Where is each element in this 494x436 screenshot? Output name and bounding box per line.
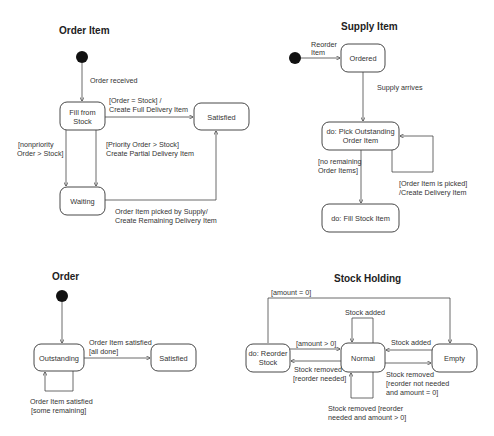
state-waiting-label: Waiting xyxy=(70,197,94,206)
label-supply-arrives: Supply arrives xyxy=(377,83,423,92)
label-removed-self: Stock removed [reorder xyxy=(328,404,404,413)
initial-state-dot xyxy=(76,51,88,63)
label-remaining-delivery: Create Remaining Delivery Item xyxy=(115,216,217,225)
label-priority: Create Partial Delivery Item xyxy=(106,149,194,158)
state-pick-outstanding-label: do: Pick Outstanding xyxy=(326,127,394,136)
transition-some-remaining xyxy=(45,371,73,391)
state-order-satisfied-label: Satisfied xyxy=(159,354,187,363)
label-reorder-item: Item xyxy=(311,48,325,57)
label-removed-self: needed and amount > 0] xyxy=(328,413,406,422)
stock-holding-diagram: Stock Holding [amount = 0] do: Reorder S… xyxy=(246,273,477,422)
label-some-remaining: [some remaining] xyxy=(31,406,86,415)
state-normal-label: Normal xyxy=(351,354,375,363)
transition-stock-added-self xyxy=(352,318,373,343)
order-item-title: Order Item xyxy=(59,25,110,36)
order-title: Order xyxy=(52,271,79,282)
label-amount-zero: [amount = 0] xyxy=(271,288,311,297)
label-removed-reorder: Stock removed xyxy=(294,365,342,374)
state-outstanding-label: Outstanding xyxy=(39,354,79,363)
state-ordered-label: Ordered xyxy=(349,54,376,63)
state-fill-stock-item-label: do: Fill Stock Item xyxy=(331,214,390,223)
stock-holding-title: Stock Holding xyxy=(334,273,401,284)
state-pick-outstanding-label: Order Item xyxy=(343,136,378,145)
state-satisfied-label: Satisfied xyxy=(207,113,235,122)
label-full-delivery: [Order = Stock] / xyxy=(109,96,162,105)
label-all-done: Order Item satisfied xyxy=(89,338,152,347)
state-fill-from-stock-label: Stock xyxy=(73,117,92,126)
label-all-done: [all done] xyxy=(89,347,118,356)
state-reorder-stock-label: do: Reorder xyxy=(248,349,288,358)
label-no-remaining: [no remaining xyxy=(318,157,362,166)
label-remaining-delivery: Order Item picked by Supply/ xyxy=(115,207,208,216)
state-diagrams-canvas: Order Item Order received Fill from Stoc… xyxy=(0,0,494,436)
order-item-diagram: Order Item Order received Fill from Stoc… xyxy=(17,25,249,225)
label-priority: [Priority Order > Stock] xyxy=(106,140,179,149)
transition-removed-self xyxy=(351,372,373,398)
label-removed-not-needed: and amount = 0] xyxy=(386,388,438,397)
initial-state-dot xyxy=(289,52,301,64)
label-no-remaining: Order Items] xyxy=(318,166,358,175)
label-nonpriority: Order > Stock] xyxy=(17,149,64,158)
supply-item-diagram: Supply Item Reorder Item Ordered Supply … xyxy=(289,21,467,232)
label-stock-added-self: Stock added xyxy=(345,308,385,317)
state-fill-from-stock-label: Fill from xyxy=(69,108,95,117)
initial-state-dot xyxy=(56,290,68,302)
label-removed-not-needed: Stock removed xyxy=(386,370,434,379)
transition-amount-zero xyxy=(268,298,450,343)
supply-item-title: Supply Item xyxy=(341,21,398,32)
label-some-remaining: Order Item satisfied xyxy=(30,397,93,406)
state-reorder-stock-label: Stock xyxy=(259,358,278,367)
order-diagram: Order Outstanding Order Item satisfied [… xyxy=(30,271,196,415)
label-removed-reorder: [reorder needed] xyxy=(293,374,346,383)
label-removed-not-needed: [reorder not needed xyxy=(386,379,449,388)
label-stock-added-empty: Stock added xyxy=(391,338,431,347)
label-order-item-picked: /Create Delivery Item xyxy=(399,188,467,197)
label-amount-gt-zero: [amount > 0] xyxy=(296,339,336,348)
state-empty-label: Empty xyxy=(444,354,465,363)
label-order-item-picked: [Order Item is picked] xyxy=(399,179,467,188)
label-order-received: Order received xyxy=(90,76,138,85)
label-nonpriority: [nonpriority xyxy=(18,140,54,149)
label-full-delivery: Create Full Delivery Item xyxy=(109,105,188,114)
